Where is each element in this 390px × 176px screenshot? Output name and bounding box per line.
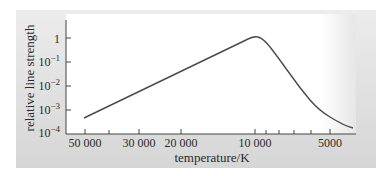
- x-tick-label: 20 000: [165, 136, 198, 151]
- y-tick-label: 10−3: [20, 101, 60, 118]
- y-tick-label: 10−4: [20, 124, 60, 141]
- x-tick-label: 50 000: [69, 136, 102, 151]
- data-curve: [84, 37, 353, 128]
- y-tick-label: 10−2: [20, 77, 60, 94]
- y-tick-label: 10−1: [20, 53, 60, 70]
- x-axis-label: temperature/K: [174, 150, 249, 166]
- x-tick-label: 5000: [318, 136, 342, 151]
- x-tick-label: 10 000: [239, 136, 272, 151]
- y-tick-label: 1: [20, 30, 60, 47]
- x-ticks: [85, 129, 330, 134]
- x-tick-label: 30 000: [123, 136, 156, 151]
- y-ticks: [66, 38, 71, 110]
